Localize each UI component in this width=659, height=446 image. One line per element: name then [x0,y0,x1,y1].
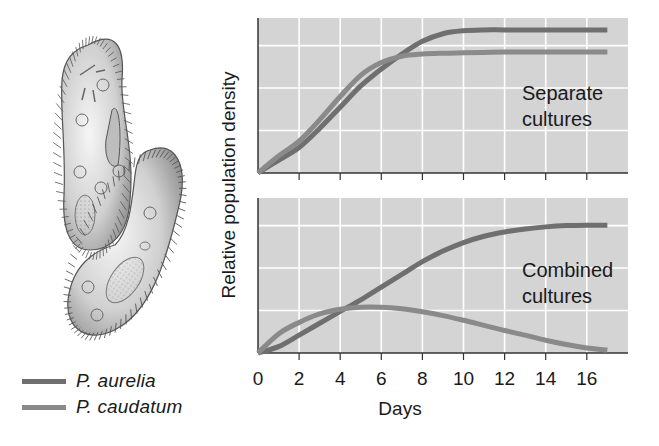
panel-label-separate: Separatecultures [522,80,603,132]
legend-swatch-aurelia [22,379,66,384]
x-tick-label: 14 [535,368,556,390]
x-tick-label: 10 [453,368,474,390]
legend-label-caudatum: P. caudatum [76,396,182,418]
figure: Separatecultures Combinedcultures Relati… [0,0,659,446]
legend-swatch-caudatum [22,405,66,410]
x-tick-label: 2 [294,368,305,390]
x-tick-label: 6 [376,368,387,390]
legend-label-aurelia: P. aurelia [76,370,156,392]
x-tick-label: 16 [576,368,597,390]
legend-item-caudatum: P. caudatum [22,394,182,420]
x-tick-label: 4 [335,368,346,390]
legend-item-aurelia: P. aurelia [22,368,182,394]
x-axis-label: Days [378,398,421,420]
panel-label-combined: Combinedcultures [522,257,613,309]
x-tick-label: 8 [417,368,428,390]
legend: P. aurelia P. caudatum [22,368,182,420]
x-tick-label: 0 [253,368,264,390]
x-tick-label: 12 [494,368,515,390]
